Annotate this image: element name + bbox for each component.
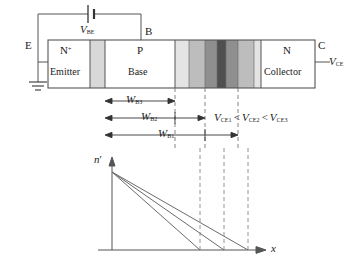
figure-root: VBE E B C VCE N+ Emitter P Base N Collec…	[0, 0, 352, 272]
profile-line-wb1	[112, 172, 200, 250]
x-axis-label: x	[271, 243, 276, 254]
y-axis-arrowhead	[109, 157, 115, 166]
emitter-type-label: N+	[60, 45, 71, 56]
base-name-label: Base	[128, 67, 147, 77]
vce-inequality-annotation: VCE1<VCE2<VCE3	[214, 112, 288, 123]
battery-voltage-label: VBE	[80, 24, 95, 35]
dimension-label-wb1: WB1	[158, 128, 174, 139]
carrier-profile-lines	[112, 172, 248, 250]
bc-band-core	[217, 40, 226, 88]
collector-terminal-label: C	[318, 40, 325, 51]
dimension-label-wb3: WB3	[126, 94, 142, 105]
bjt-diagram-svg	[0, 0, 352, 272]
bc-band-inner-left	[205, 40, 217, 88]
bc-band-outer-right	[254, 40, 261, 88]
emitter-terminal-label: E	[25, 40, 32, 51]
bc-band-inner-right	[226, 40, 238, 88]
profile-line-wb2	[112, 172, 224, 250]
battery-icon	[88, 5, 94, 23]
bc-band-mid-left	[189, 40, 205, 88]
ground-icon	[29, 82, 47, 90]
eb-depletion-region	[90, 40, 105, 88]
base-terminal-label: B	[145, 26, 152, 37]
graph-axes	[98, 157, 266, 253]
y-axis-label: n′	[94, 154, 102, 165]
x-axis-arrowhead	[256, 247, 266, 254]
bc-band-mid-right	[238, 40, 254, 88]
graph-dashed-guides	[200, 148, 248, 250]
dimension-label-wb2: WB2	[141, 111, 157, 122]
collector-name-label: Collector	[264, 67, 301, 77]
base-type-label: P	[137, 45, 143, 56]
collector-type-label: N	[283, 45, 291, 56]
emitter-name-label: Emitter	[50, 67, 80, 77]
profile-line-wb3	[112, 172, 248, 250]
collector-voltage-label: VCE	[329, 56, 344, 67]
bc-depletion-region	[175, 40, 261, 88]
bc-band-outer-left	[175, 40, 189, 88]
